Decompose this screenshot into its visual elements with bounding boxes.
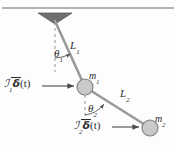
angle-1-label: θ1 (54, 48, 63, 62)
length-2-label: L2 (120, 88, 130, 102)
impulse-2-label: ℐ2δ(t) (74, 120, 100, 134)
length-1-label: L1 (70, 40, 80, 54)
double-pendulum-diagram: L1 L2 m1 m2 θ1 θ2 ℐ1δ(t) ℐ2δ(t) (0, 0, 176, 151)
impulse-1-label: ℐ1δ(t) (4, 78, 30, 92)
angle-2-label: θ2 (88, 103, 97, 117)
mass-2-label: m2 (155, 114, 165, 126)
mass-1-label: m1 (89, 71, 99, 83)
